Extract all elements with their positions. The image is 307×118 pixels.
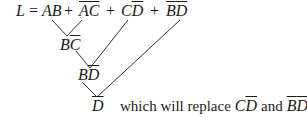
connector-nbd [97, 20, 180, 97]
connector-ab [52, 20, 67, 36]
consensus-b-not-c: BC [60, 37, 80, 53]
note-term-c-not-d: CD [235, 97, 257, 114]
consensus-not-d: D [92, 98, 104, 114]
connector-bd [82, 82, 97, 97]
plus-sign: + [150, 3, 159, 19]
connector-cd [90, 20, 128, 68]
consensus-b-not-d: BD [78, 67, 99, 83]
note-text: which will replace [120, 98, 231, 114]
lhs: L [16, 3, 25, 19]
note-term-not-b-not-d: BD [287, 97, 307, 114]
term-not-b-not-d: BD [166, 3, 187, 19]
term-c-not-d: CD [121, 3, 143, 19]
term-ab: AB [42, 3, 62, 19]
note-conj: and [261, 98, 283, 114]
plus-sign: + [106, 3, 115, 19]
term-not-a-not-c: AC [79, 3, 99, 19]
plus-sign: + [64, 3, 73, 19]
replacement-note: which will replace CD and BD [120, 98, 307, 114]
equals-sign: = [29, 3, 38, 19]
connector-ac [67, 20, 82, 36]
